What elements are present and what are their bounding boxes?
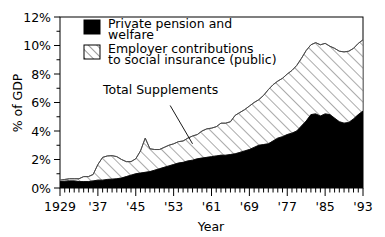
y-axis-title: % of GDP — [10, 73, 25, 132]
x-tick-label: '77 — [278, 199, 297, 214]
x-tick-label: '93 — [353, 199, 372, 214]
y-tick-label: 6% — [31, 95, 51, 110]
hatched-swatch — [84, 45, 100, 59]
y-tick-label: 0% — [31, 181, 51, 196]
chart-container: 0%2%4%6%8%10%12% 1929'37'45'53'61'69'77'… — [0, 0, 385, 237]
y-tick-label: 4% — [31, 124, 51, 139]
x-tick-label: '69 — [240, 199, 259, 214]
supplements-area-chart: 0%2%4%6%8%10%12% 1929'37'45'53'61'69'77'… — [0, 0, 385, 237]
solid-black-swatch — [84, 20, 100, 34]
x-tick-label: '45 — [126, 199, 145, 214]
y-tick-label: 12% — [23, 10, 51, 25]
legend-item-1-line2: welfare — [108, 27, 154, 42]
y-tick-label: 2% — [31, 152, 51, 167]
legend-item-2-line2: to social insurance (public) — [108, 52, 277, 67]
x-tick-label: '85 — [315, 199, 334, 214]
x-tick-label: '61 — [202, 199, 221, 214]
x-tick-label: 1929 — [44, 199, 76, 214]
annotation-label: Total Supplements — [102, 82, 218, 97]
y-tick-label: 8% — [31, 67, 51, 82]
x-axis-title: Year — [197, 219, 225, 234]
x-tick-label: '37 — [88, 199, 107, 214]
x-tick-label: '53 — [164, 199, 183, 214]
y-tick-label: 10% — [23, 38, 51, 53]
